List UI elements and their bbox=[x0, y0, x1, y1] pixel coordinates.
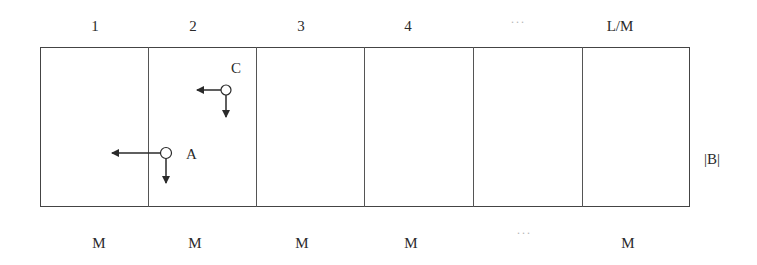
bottom-label-3: M bbox=[272, 234, 332, 252]
point-c-group bbox=[197, 85, 231, 117]
bottom-label-1: M bbox=[69, 234, 129, 252]
point-a-group bbox=[112, 148, 172, 184]
bottom-label-ellipsis: ··· bbox=[494, 224, 554, 242]
point-c-circle-icon bbox=[221, 85, 231, 95]
point-a-label: A bbox=[186, 145, 197, 163]
arrows-overlay bbox=[0, 0, 757, 265]
side-label-b: |B| bbox=[704, 150, 720, 168]
bottom-label-2: M bbox=[165, 234, 225, 252]
point-a-circle-icon bbox=[161, 148, 172, 159]
point-c-label: C bbox=[231, 59, 241, 77]
bottom-label-4: M bbox=[381, 234, 441, 252]
bottom-label-last: M bbox=[598, 234, 658, 252]
